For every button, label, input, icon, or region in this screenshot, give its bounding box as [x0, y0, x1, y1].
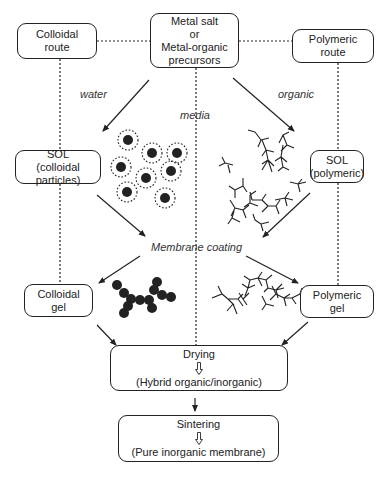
precursors-line-4: precursors: [169, 54, 221, 67]
colloidal-gel-box: Colloidal gel: [24, 284, 93, 317]
colloidal-particles-illustration: [111, 130, 187, 208]
arrow: [97, 195, 145, 236]
gel-particle: [157, 290, 167, 300]
arrow: [233, 78, 294, 131]
precursors-line-2: or: [190, 28, 200, 41]
drying-title: Drying: [183, 348, 215, 361]
hollow-down-arrow-icon: [195, 362, 203, 375]
arrow: [99, 256, 140, 283]
sintering-box: Sintering (Pure inorganic membrane): [118, 415, 279, 462]
particle-core: [116, 162, 126, 172]
drying-box: Drying (Hybrid organic/inorganic): [110, 345, 288, 391]
polymeric-route-line-1: Polymeric: [309, 33, 357, 46]
colloidal-route-line-1: Colloidal: [36, 28, 78, 41]
colloidal-route-box: Colloidal route: [17, 23, 97, 59]
sol-polymeric-box: SOL (polymeric): [310, 150, 364, 183]
sol-polymeric-line-1: SOL: [326, 154, 348, 167]
colloidal-gel-line-1: Colloidal: [37, 288, 79, 301]
arrow: [282, 322, 308, 345]
colloidal-gel-line-2: gel: [51, 301, 66, 314]
gel-particle: [152, 277, 162, 287]
hollow-down-arrow-icon: [195, 432, 203, 445]
sol-colloidal-box: SOL (colloidal particles): [15, 150, 101, 184]
gel-particle: [166, 292, 176, 302]
particle-core: [122, 187, 132, 197]
particle-core: [172, 148, 182, 158]
polymeric-gel-box: Polymeric gel: [300, 285, 374, 318]
dotted-connectors: [60, 41, 338, 345]
particle-core: [141, 173, 151, 183]
organic-label: organic: [278, 88, 314, 100]
sol-colloidal-line-2: (colloidal particles): [16, 161, 100, 187]
particle-core: [123, 135, 133, 145]
gel-particle: [135, 295, 145, 305]
polymeric-route-box: Polymeric route: [292, 29, 374, 63]
gel-particle: [147, 303, 157, 313]
polymeric-route-line-2: route: [320, 46, 345, 59]
membrane-coating-label: Membrane coating: [151, 241, 242, 253]
particle-core: [147, 148, 157, 158]
precursors-line-1: Metal salt: [171, 15, 218, 28]
water-label: water: [80, 88, 107, 100]
arrow: [97, 325, 116, 345]
colloidal-gel-illustration: [112, 277, 176, 318]
drying-result: (Hybrid organic/inorganic): [136, 376, 262, 389]
arrow: [103, 80, 149, 131]
gel-particle: [112, 280, 122, 290]
polymeric-sol-illustration: [219, 130, 306, 231]
media-label: media: [180, 109, 210, 121]
sol-polymeric-line-2: (polymeric): [310, 167, 364, 180]
sol-colloidal-line-1: SOL: [47, 148, 69, 161]
sol-gel-diagram: [0, 0, 389, 478]
precursors-box: Metal salt or Metal-organic precursors: [150, 13, 239, 68]
precursors-line-3: Metal-organic: [161, 41, 228, 54]
gel-particle: [123, 301, 133, 311]
polymeric-gel-line-1: Polymeric: [313, 289, 361, 302]
particle-core: [166, 166, 176, 176]
sintering-title: Sintering: [177, 418, 220, 431]
colloidal-route-line-2: route: [44, 41, 69, 54]
sintering-result: (Pure inorganic membrane): [132, 446, 266, 459]
arrow: [263, 193, 310, 237]
particle-core: [160, 193, 170, 203]
polymeric-gel-line-2: gel: [330, 302, 345, 315]
